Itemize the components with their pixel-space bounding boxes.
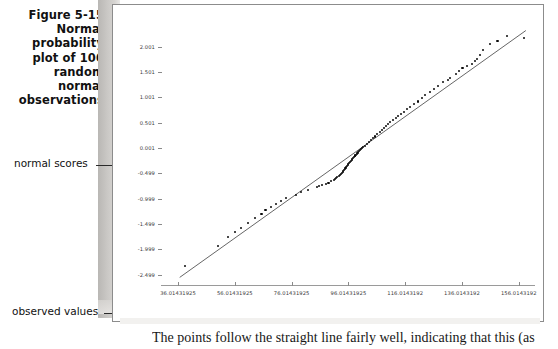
caption-line-4: random	[0, 65, 104, 79]
x-tick-mark	[519, 282, 520, 286]
annotation-observed-values: observed values	[12, 305, 98, 317]
data-point	[461, 67, 463, 69]
data-point	[341, 172, 343, 174]
data-point	[307, 189, 309, 191]
annotation-normal-scores: normal scores	[14, 157, 88, 169]
x-tick-mark	[235, 282, 236, 286]
data-point	[417, 100, 419, 102]
x-tick-label: 136.0143192	[444, 290, 480, 296]
figure-sheet: 2.0011.5011.0010.5010.001-0.499-0.999-1.…	[112, 4, 544, 322]
y-tick-label: -0.999	[138, 196, 155, 202]
scatter-plot-area	[161, 29, 533, 285]
y-tick-mark	[158, 72, 162, 73]
data-point	[455, 73, 457, 75]
data-point	[523, 37, 525, 39]
x-tick-mark	[178, 282, 179, 286]
data-point	[354, 154, 356, 156]
caption-line-1: Normal	[0, 22, 104, 36]
data-point	[285, 197, 287, 199]
y-tick-mark	[158, 148, 162, 149]
y-tick-mark	[158, 275, 162, 276]
x-tick-label: 156.0143192	[501, 290, 537, 296]
y-tick-mark	[158, 199, 162, 200]
x-tick-label: 76.01431925	[274, 290, 310, 296]
data-point	[406, 108, 408, 110]
y-tick-label: -2.499	[138, 272, 155, 278]
data-point	[400, 113, 402, 115]
caption-line-6: observations	[0, 93, 104, 107]
data-point	[247, 222, 249, 224]
data-point	[350, 160, 352, 162]
data-point	[217, 245, 219, 247]
y-tick-mark	[158, 123, 162, 124]
data-point	[254, 217, 256, 219]
caption-line-2: probability	[0, 36, 104, 50]
data-point	[496, 40, 498, 42]
x-tick-label: 96.01431925	[331, 290, 367, 296]
y-tick-mark	[158, 173, 162, 174]
y-tick-mark	[158, 224, 162, 225]
caption-line-5: normal	[0, 79, 104, 93]
data-point	[270, 206, 272, 208]
x-tick-mark	[348, 282, 349, 286]
data-point	[403, 111, 405, 113]
figure-caption: Figure 5-15Normalprobabilityplot of 100r…	[0, 8, 104, 107]
data-point	[295, 194, 297, 196]
x-tick-label: 116.0143192	[387, 290, 423, 296]
data-point	[458, 70, 460, 72]
y-tick-label: 0.501	[140, 120, 155, 126]
x-tick-mark	[462, 282, 463, 286]
y-tick-mark	[158, 97, 162, 98]
y-tick-mark	[158, 249, 162, 250]
data-point	[364, 145, 366, 147]
data-point	[327, 182, 329, 184]
x-tick-label: 56.01431925	[217, 290, 253, 296]
data-point	[374, 135, 376, 137]
page-fold-smudge	[120, 318, 540, 324]
data-point	[260, 213, 262, 215]
data-point	[325, 183, 327, 185]
data-point	[413, 103, 415, 105]
data-point	[344, 168, 346, 170]
y-tick-label: 0.001	[140, 145, 155, 151]
y-tick-label: -0.499	[138, 170, 155, 176]
data-point	[347, 164, 349, 166]
y-tick-label: -1.499	[138, 221, 155, 227]
x-tick-mark	[292, 282, 293, 286]
data-point	[339, 174, 341, 176]
data-point	[264, 209, 266, 211]
x-tick-label: 36.01431925	[160, 290, 196, 296]
y-tick-label: -1.999	[138, 246, 155, 252]
y-tick-mark	[158, 47, 162, 48]
caption-line-3: plot of 100	[0, 51, 104, 65]
body-paragraph: The points follow the straight line fair…	[152, 330, 558, 346]
y-tick-label: 2.001	[140, 44, 155, 50]
y-tick-label: 1.001	[140, 94, 155, 100]
data-point	[275, 203, 277, 205]
x-tick-mark	[405, 282, 406, 286]
y-tick-label: 1.501	[140, 69, 155, 75]
caption-line-0: Figure 5-15	[0, 8, 104, 22]
